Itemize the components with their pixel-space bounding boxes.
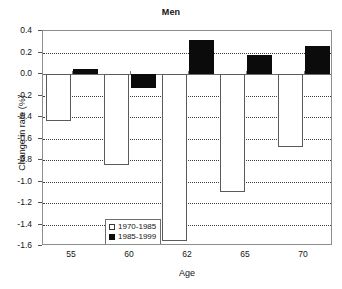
x-tick-label: 55: [51, 249, 91, 259]
y-tick-label: -1.2: [0, 197, 37, 207]
gridline: [43, 203, 331, 204]
legend-label: 1970-1985: [118, 222, 156, 232]
bar: [46, 74, 71, 121]
bar: [104, 74, 129, 165]
x-tick-label: 70: [283, 249, 323, 259]
bar: [247, 55, 272, 74]
gridline: [43, 225, 331, 226]
chart-legend: 1970-1985 1985-1999: [105, 219, 161, 245]
bar: [220, 74, 245, 192]
y-tick-mark: [38, 73, 42, 74]
y-tick-label: 0.4: [0, 25, 37, 35]
gridline: [43, 160, 331, 161]
y-tick-label: 0.2: [0, 47, 37, 57]
y-tick-mark: [38, 95, 42, 96]
x-tick-mark: [72, 71, 73, 74]
y-tick-mark: [38, 224, 42, 225]
y-tick-mark: [38, 159, 42, 160]
y-tick-mark: [38, 30, 42, 31]
y-tick-label: -0.6: [0, 133, 37, 143]
x-tick-label: 65: [225, 249, 265, 259]
x-tick-mark: [304, 71, 305, 74]
y-tick-label: 0.0: [0, 68, 37, 78]
y-tick-label: -0.4: [0, 111, 37, 121]
x-tick-mark: [130, 71, 131, 74]
y-tick-mark: [38, 202, 42, 203]
plot-area: 1970-1985 1985-1999: [42, 30, 332, 245]
y-tick-label: -1.4: [0, 219, 37, 229]
legend-swatch-open-icon: [109, 224, 115, 230]
chart-figure: Men Change in rate (%) 1970-1985 1985-19…: [0, 0, 342, 289]
x-tick-mark: [246, 71, 247, 74]
gridline: [43, 182, 331, 183]
bar: [305, 46, 330, 74]
x-tick-mark: [188, 71, 189, 74]
legend-label: 1985-1999: [118, 232, 156, 242]
y-tick-label: -1.6: [0, 240, 37, 250]
legend-item: 1985-1999: [109, 232, 156, 242]
bar: [162, 74, 187, 241]
x-tick-label: 62: [167, 249, 207, 259]
bar: [131, 74, 156, 88]
y-tick-label: -0.8: [0, 154, 37, 164]
bar: [189, 40, 214, 74]
y-tick-mark: [38, 52, 42, 53]
chart-title: Men: [0, 7, 342, 17]
gridline: [43, 53, 331, 54]
y-tick-label: -0.2: [0, 90, 37, 100]
bar: [278, 74, 303, 147]
x-axis-label: Age: [42, 268, 332, 278]
bar: [73, 69, 98, 74]
x-tick-label: 60: [109, 249, 149, 259]
y-tick-mark: [38, 138, 42, 139]
legend-item: 1970-1985: [109, 222, 156, 232]
y-tick-mark: [38, 181, 42, 182]
y-tick-mark: [38, 116, 42, 117]
legend-swatch-solid-icon: [109, 234, 115, 240]
y-tick-mark: [38, 245, 42, 246]
y-tick-label: -1.0: [0, 176, 37, 186]
